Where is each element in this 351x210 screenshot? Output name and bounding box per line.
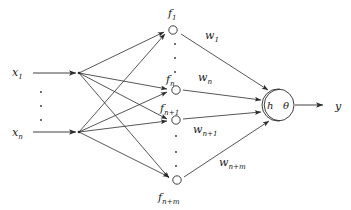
output-label-y: y [334,100,342,113]
edges-from-x1-group [79,32,169,178]
hidden-label-fn1-sub: n+1 [164,108,179,117]
ellipsis-dot [175,165,177,167]
ellipsis-dot [174,43,176,45]
input-label-xn: xn [12,126,23,141]
ellipsis-dot [175,151,177,153]
weight-label-wnm: wn+m [219,156,246,171]
edge-xn-to-f1 [79,34,165,132]
edge-fn1-to-neuron [183,112,261,119]
edge-f1-to-neuron [181,34,268,90]
hidden-nodes-group [169,26,181,184]
weight-label-w1-sub: 1 [214,35,219,44]
edge-xn-to-fn1 [79,121,167,132]
input-label-x1-sub: 1 [18,72,23,81]
ellipsis-dot [40,105,42,107]
edge-fn-to-neuron [183,90,261,100]
neuron-label-h: h [267,100,273,111]
weight-label-wn1-sub: n+1 [202,129,217,138]
hidden-label-f1-sub: 1 [172,13,177,22]
hidden-label-f1: f1 [167,7,177,22]
weight-label-w1: w1 [205,29,219,44]
ellipsis-input-group [40,91,42,121]
edge-xn-to-fnm [79,132,169,177]
ellipsis-dot [40,119,42,121]
neuron-label-theta: θ [283,100,289,111]
weight-label-wnm-sub: n+m [228,162,246,171]
weight-label-wn: wn [198,71,212,86]
hidden-label-fnm: fn+m [157,191,180,206]
input-label-xn-sub: n [18,132,23,141]
ellipsis-hidden-lower-group [175,135,177,167]
hidden-label-fn1: fn+1 [159,102,179,117]
input-label-x1: x1 [12,66,23,81]
neural-network-diagram: x1 xn f1 fn fn+1 fn+m w1 wn wn+1 wn+m [0,0,351,210]
fanout-points-group [78,72,81,134]
edge-x1-to-f1 [79,32,164,73]
edges-from-xn-group [79,34,169,177]
hidden-label-fn: fn [165,73,175,88]
ellipsis-dot [174,71,176,73]
hidden-node-f1[interactable] [169,26,177,34]
hidden-label-fn-sub: n [170,79,175,88]
weight-label-wn1: wn+1 [193,123,218,138]
input-arrows-group [33,73,76,132]
hidden-label-fnm-sub: n+m [162,197,180,206]
ellipsis-dot [175,135,177,137]
ellipsis-hidden-upper-group [174,43,176,73]
weight-label-wn-sub: n [207,77,212,86]
edge-x1-to-fn [79,73,167,89]
ellipsis-dot [174,57,176,59]
ellipsis-dot [40,91,42,93]
hidden-node-fn1[interactable] [172,116,180,124]
hidden-node-fnm[interactable] [173,176,181,184]
network-canvas: x1 xn f1 fn fn+1 fn+m w1 wn wn+1 wn+m [0,0,351,210]
